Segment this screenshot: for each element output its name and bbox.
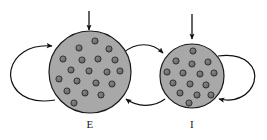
neuron-dot bbox=[211, 70, 217, 76]
neuron-dot bbox=[187, 81, 193, 87]
population-label-i: I bbox=[190, 118, 194, 130]
neuron-dot bbox=[95, 56, 101, 62]
connection-e-to-i-path bbox=[123, 45, 163, 53]
connection-i-to-e bbox=[126, 99, 165, 105]
neuron-dot bbox=[205, 59, 211, 65]
neuron-dot bbox=[82, 90, 88, 96]
excitatory-population bbox=[49, 31, 131, 113]
network-diagram-figure: EI bbox=[0, 0, 267, 140]
neuron-dot bbox=[194, 92, 200, 98]
neuron-dot bbox=[74, 78, 80, 84]
diagram-canvas: EI bbox=[0, 0, 267, 140]
population-labels: EI bbox=[87, 118, 195, 130]
populations-layer bbox=[49, 31, 224, 113]
neuron-dot bbox=[177, 90, 183, 96]
neuron-dot bbox=[189, 61, 195, 67]
neuron-dot bbox=[164, 69, 170, 75]
neuron-dot bbox=[92, 38, 98, 44]
neuron-dot bbox=[76, 45, 82, 51]
neuron-dot bbox=[109, 81, 115, 87]
neuron-dot bbox=[56, 76, 62, 82]
connection-i-to-e-path bbox=[126, 99, 165, 105]
neuron-dot bbox=[86, 68, 92, 74]
neuron-dot bbox=[208, 92, 214, 98]
neuron-dot bbox=[106, 46, 112, 52]
neuron-dot bbox=[64, 88, 70, 94]
neuron-dot bbox=[112, 57, 118, 63]
recurrent-loop-E-path bbox=[11, 46, 55, 101]
connection-e-to-i bbox=[123, 45, 163, 53]
neuron-dot bbox=[180, 70, 186, 76]
neuron-dot bbox=[186, 100, 192, 106]
neuron-dot bbox=[93, 80, 99, 86]
inhibitory-population bbox=[160, 44, 224, 108]
neuron-dot bbox=[68, 67, 74, 73]
neuron-dot bbox=[98, 92, 104, 98]
neuron-dot bbox=[60, 56, 66, 62]
neuron-dot bbox=[173, 58, 179, 64]
neuron-dot bbox=[104, 69, 110, 75]
neuron-dot bbox=[190, 48, 196, 54]
neuron-dot bbox=[203, 82, 209, 88]
neuron-dot bbox=[71, 100, 77, 106]
neuron-dot bbox=[170, 80, 176, 86]
neuron-dot bbox=[197, 71, 203, 77]
neuron-dot bbox=[79, 57, 85, 63]
recurrent-loop-E bbox=[11, 46, 55, 101]
neuron-dot bbox=[117, 68, 123, 74]
population-label-e: E bbox=[87, 118, 94, 130]
